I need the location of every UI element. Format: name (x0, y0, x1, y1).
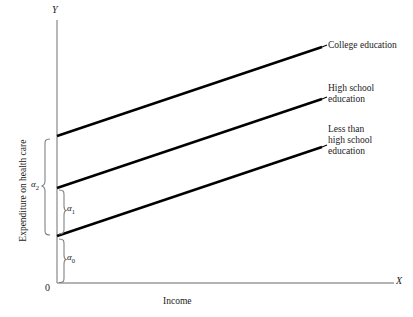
series-label-high-school-education: High school education (328, 83, 374, 105)
brace-alpha-2 (42, 139, 51, 235)
leader-line-college (322, 45, 327, 47)
x-axis-title: Income (163, 296, 192, 307)
series-line-less-than-high-school (57, 147, 322, 236)
y-axis-letter: Y (52, 4, 58, 16)
series-label-line: education (328, 146, 372, 157)
origin-label: 0 (45, 282, 50, 294)
series-line-high-school (57, 99, 322, 188)
brace-alpha-1 (59, 190, 66, 234)
series-label-line: education (328, 94, 374, 105)
y-axis-title: Expenditure on health care (18, 121, 29, 261)
annotation-label-alpha-2: α2 (31, 179, 39, 191)
leader-line-less-than-high-school (322, 145, 327, 147)
figure-canvas: Y X 0 Income Expenditure on health care … (0, 0, 413, 317)
series-label-college-education: College education (328, 40, 397, 51)
series-label-line: High school (328, 83, 374, 94)
series-line-college (57, 47, 322, 136)
annotation-label-alpha-0: α0 (67, 252, 75, 264)
alpha-subscript: 0 (72, 257, 75, 264)
series-label-less-than-high-school-education: Less than high school education (328, 124, 372, 158)
series-label-line: College education (328, 40, 397, 51)
annotation-label-alpha-1: α1 (67, 203, 75, 215)
leader-line-high-school (322, 97, 327, 99)
alpha-subscript: 1 (72, 208, 75, 215)
x-axis-letter: X (396, 275, 402, 287)
alpha-subscript: 2 (36, 184, 39, 191)
series-label-line: high school (328, 135, 372, 146)
brace-alpha-0 (59, 239, 66, 283)
series-label-line: Less than (328, 124, 372, 135)
